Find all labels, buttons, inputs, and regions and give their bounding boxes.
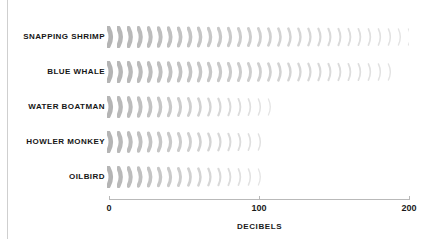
row-category-label: WATER BOATMAN	[0, 102, 105, 111]
chart-row: BLUE WHALE	[0, 58, 431, 86]
chart-title-strip	[8, 0, 431, 9]
x-axis-tick-label: 100	[239, 203, 279, 213]
row-bar	[107, 128, 267, 156]
chart-row: HOWLER MONKEY	[0, 128, 431, 156]
row-bar	[107, 93, 273, 121]
row-bar	[107, 23, 409, 51]
row-category-label: OILBIRD	[0, 172, 105, 181]
chart-row: SNAPPING SHRIMP	[0, 23, 431, 51]
row-bar	[107, 163, 264, 191]
chart-row: WATER BOATMAN	[0, 93, 431, 121]
row-category-label: BLUE WHALE	[0, 67, 105, 76]
x-axis-tick-mark	[109, 196, 110, 200]
row-bar	[107, 58, 391, 86]
x-axis-tick-mark	[409, 196, 410, 200]
chart-row: OILBIRD	[0, 163, 431, 191]
x-axis-tick-mark	[259, 196, 260, 200]
row-category-label: SNAPPING SHRIMP	[0, 32, 105, 41]
sound-level-bar-chart: SNAPPING SHRIMPBLUE WHALEWATER BOATMANHO…	[0, 0, 431, 239]
x-axis-title: DECIBELS	[109, 222, 410, 231]
row-category-label: HOWLER MONKEY	[0, 137, 105, 146]
x-axis-tick-label: 0	[89, 203, 129, 213]
x-axis-tick-label: 200	[389, 203, 429, 213]
